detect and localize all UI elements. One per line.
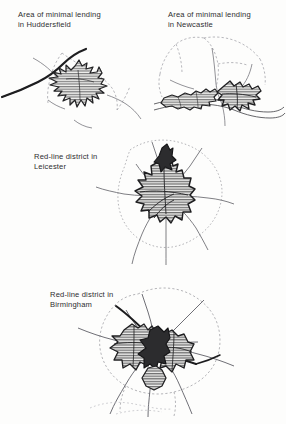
map-huddersfield [0,34,150,130]
hatched-lending-area [49,60,107,107]
scan-artefacts [86,398,206,420]
caption-newcastle: Area of minimal lending in Newcastle [168,10,284,29]
map-newcastle [152,34,286,130]
map-leicester [96,134,236,266]
figure-page: Area of minimal lending in Huddersfield [0,0,286,424]
hatched-redline-core [135,144,195,223]
hatched-redline-tail [142,366,166,390]
hatched-lending-area-south [161,89,218,110]
caption-huddersfield: Area of minimal lending in Huddersfield [18,10,146,29]
